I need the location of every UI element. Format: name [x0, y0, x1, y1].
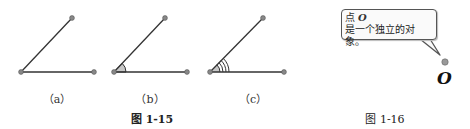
vertex-point [208, 70, 213, 75]
endpoint [163, 16, 168, 21]
angle-b [112, 16, 190, 75]
callout-title-var: O [358, 12, 367, 23]
endpoint [92, 70, 97, 75]
endpoint [261, 16, 266, 21]
point-o [442, 59, 448, 65]
vertex-point [112, 70, 117, 75]
angle-a [19, 16, 97, 75]
point-o-label: O [437, 68, 452, 88]
figure-caption-1-16: 图 1-16 [365, 110, 404, 126]
endpoint [282, 70, 287, 75]
panel-label-b: （b） [135, 90, 164, 106]
panel-label-c: （c） [239, 90, 267, 106]
callout-title: 点O [345, 12, 433, 24]
figure-caption-1-15: 图 1-15 [131, 110, 173, 126]
endpoint [185, 70, 190, 75]
endpoint [70, 16, 75, 21]
vertex-point [19, 70, 24, 75]
panel-label-a: （a） [43, 90, 72, 106]
callout-text: 是一个独立的对象。 [345, 24, 433, 48]
callout-title-prefix: 点 [345, 12, 355, 23]
angle-c [208, 16, 287, 75]
callout-box: 点O 是一个独立的对象。 [341, 9, 437, 40]
